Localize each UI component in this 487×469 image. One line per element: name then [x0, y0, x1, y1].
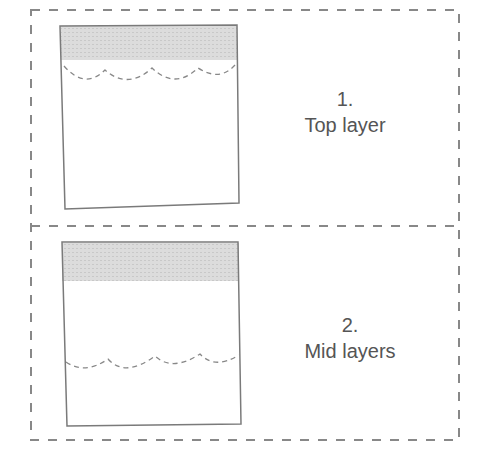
scallop-line	[64, 65, 235, 80]
diagram-canvas	[0, 0, 487, 469]
panel-2-number: 2.	[275, 312, 425, 338]
outer-dashed-border	[31, 10, 459, 440]
panel-1-label: Top layer	[270, 112, 420, 138]
panel-1-caption: 1. Top layer	[270, 86, 420, 138]
mid-layers-square	[62, 242, 241, 426]
panel-2-caption: 2. Mid layers	[275, 312, 425, 364]
scallop-line	[66, 354, 239, 368]
top-layer-square	[60, 25, 239, 209]
panel-1-number: 1.	[270, 86, 420, 112]
panel-2-label: Mid layers	[275, 338, 425, 364]
